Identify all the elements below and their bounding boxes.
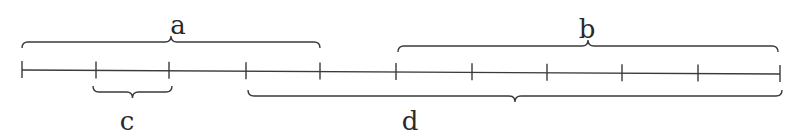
- segment-diagram: a b c d: [0, 0, 810, 134]
- brace-d: [248, 90, 782, 102]
- segment-label-a: a: [170, 12, 186, 38]
- segment-label-d: d: [402, 108, 419, 134]
- brace-c: [93, 86, 172, 98]
- segment-label-b: b: [579, 16, 596, 42]
- segment-label-c: c: [120, 108, 135, 134]
- number-line: [22, 70, 780, 74]
